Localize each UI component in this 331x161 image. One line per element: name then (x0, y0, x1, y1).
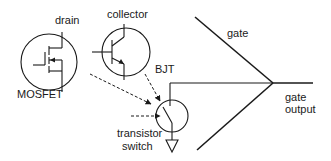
transistor-label: transistor (117, 127, 162, 139)
gate-output-label-line2: output (285, 103, 316, 115)
mosfet-icon (21, 32, 77, 92)
bjt-icon (92, 24, 150, 80)
switch-label: switch (122, 140, 153, 152)
diagram-drawing (0, 0, 331, 161)
collector-label: collector (107, 8, 148, 20)
gate-label: gate (227, 27, 248, 39)
diagram-canvas: drain MOSFET collector BJT transistor sw… (0, 0, 331, 161)
mosfet-label: MOSFET (17, 88, 63, 100)
bjt-label: BJT (155, 63, 175, 75)
gate-output-label-line1: gate (285, 91, 306, 103)
drain-label: drain (55, 14, 79, 26)
dashed-arrows (90, 74, 160, 116)
transistor-switch-icon (156, 83, 188, 152)
